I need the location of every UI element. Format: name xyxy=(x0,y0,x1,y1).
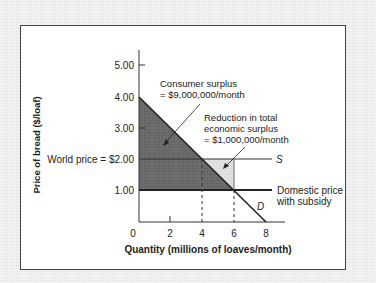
y-tick-3: 3.00 xyxy=(115,123,135,134)
domestic-price-label-2: with subsidy xyxy=(276,196,331,207)
x-tick-0: 0 xyxy=(130,228,136,239)
y-tick-4: 4.00 xyxy=(115,92,135,103)
x-tick-6: 6 xyxy=(231,228,237,239)
x-tick-4: 4 xyxy=(199,228,205,239)
y-tick-1: 1.00 xyxy=(115,185,135,196)
world-price-label: World price = $2.00 xyxy=(47,154,134,165)
domestic-price-label-1: Domestic price xyxy=(277,185,344,196)
x-tick-2: 2 xyxy=(167,228,173,239)
reduction-label-1: Reduction in total xyxy=(204,112,277,123)
supply-label-s: S xyxy=(276,154,283,165)
reduction-label-2: economic surplus xyxy=(204,123,278,134)
reduction-value: = $1,000,000/month xyxy=(204,134,289,145)
y-axis-title: Price of bread ($/loaf) xyxy=(31,96,42,193)
consumer-surplus-value: = $9,000,000/month xyxy=(160,89,245,100)
consumer-surplus-label: Consumer surplus xyxy=(160,78,237,89)
x-tick-8: 8 xyxy=(263,228,269,239)
chart: 5.00 4.00 3.00 World price = $2.00 1.00 … xyxy=(0,0,376,283)
demand-label-d: D xyxy=(257,201,264,212)
y-tick-5: 5.00 xyxy=(115,60,135,71)
x-axis-title: Quantity (millions of loaves/month) xyxy=(124,244,291,255)
